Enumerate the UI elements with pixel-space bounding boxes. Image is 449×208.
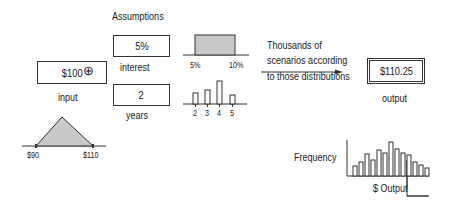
output-value-box: $110.25 [367,58,425,84]
interest-value: 5% [135,40,149,52]
years-value-box: 2 [113,84,170,106]
process-text-line-1: Thousands of [267,39,322,52]
input-value: $100 [62,67,83,79]
years-tick-2: 2 [193,108,197,118]
histogram-x-label: $ Output [373,182,408,195]
input-min-label: $90 [27,150,39,160]
interest-max-label: 10% [229,60,243,70]
assumptions-heading: Assumptions [112,10,164,23]
years-tick-5: 5 [230,108,234,118]
years-tick-3: 3 [205,108,209,118]
process-text-line-2: scenarios according [267,54,347,67]
output-value: $110.25 [379,65,412,77]
combine-icon: ⊕ [83,64,94,78]
years-value: 2 [139,89,144,101]
interest-value-box: 5% [113,35,170,57]
years-tick-4: 4 [217,108,221,118]
process-text-line-3: to those distributions [267,70,350,83]
input-value-box: $100 [37,61,107,84]
histogram-y-label: Frequency [294,151,337,164]
years-label: years [126,109,148,122]
interest-label: interest [120,61,150,74]
interest-min-label: 5% [190,60,200,70]
input-max-label: $110 [83,150,98,160]
output-label: output [382,92,407,105]
input-label: input [58,91,78,104]
